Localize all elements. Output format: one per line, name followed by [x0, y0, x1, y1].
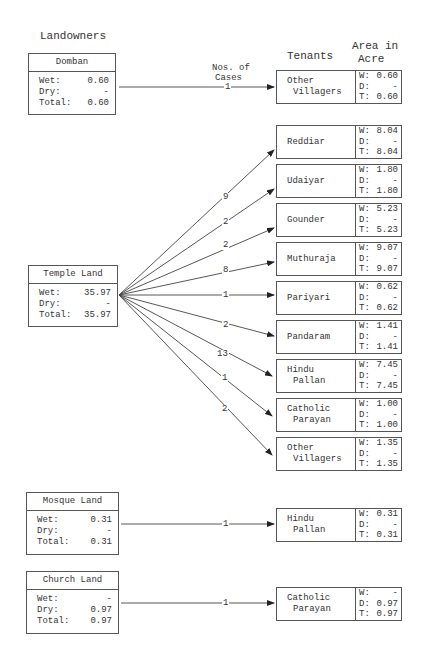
d-value: - — [393, 176, 398, 187]
tenant-box-catholic-parayan: CatholicParayan W:1.00 D:- T:1.00 — [276, 398, 402, 432]
landowners-header: Landowners — [40, 30, 106, 42]
wet-label: Wet: — [37, 515, 59, 526]
wet-label: Wet: — [39, 76, 61, 87]
t-value: 0.62 — [376, 303, 398, 314]
dry-value: - — [106, 299, 111, 310]
case-count: 13 — [216, 350, 229, 359]
tenant-box-reddiar: Reddiar W:8.04 D:- T:8.04 — [276, 125, 402, 159]
d-value: - — [393, 82, 398, 93]
t-label: T: — [359, 530, 370, 541]
tenant-name-line1: Other — [287, 76, 355, 87]
w-label: W: — [359, 126, 370, 137]
dry-value: - — [107, 526, 112, 537]
tenant-box-udaiyar: Udaiyar W:1.80 D:- T:1.80 — [276, 164, 402, 198]
w-label: W: — [359, 71, 370, 82]
d-label: D: — [359, 410, 370, 421]
d-value: - — [393, 520, 398, 531]
t-label: T: — [359, 92, 370, 103]
w-label: W: — [359, 360, 370, 371]
t-value: 5.23 — [376, 225, 398, 236]
d-label: D: — [359, 371, 370, 382]
tenant-name-line1: Pandaram — [287, 332, 355, 343]
d-label: D: — [359, 215, 370, 226]
t-value: 1.80 — [376, 186, 398, 197]
dry-label: Dry: — [39, 87, 61, 98]
d-value: - — [393, 332, 398, 343]
t-label: T: — [359, 303, 370, 314]
dry-label: Dry: — [37, 526, 59, 537]
wet-value: 0.60 — [87, 76, 109, 87]
d-value: 0.97 — [376, 599, 398, 610]
case-count: 1 — [222, 599, 229, 608]
tenant-name-line2: Villagers — [287, 87, 355, 98]
d-label: D: — [359, 176, 370, 187]
t-label: T: — [359, 459, 370, 470]
landowner-box-mosque-land: Mosque Land Wet:0.31 Dry:- Total:0.31 — [26, 492, 119, 555]
w-value: 7.45 — [376, 360, 398, 371]
w-value: 5.23 — [376, 204, 398, 215]
w-label: W: — [359, 243, 370, 254]
d-label: D: — [359, 599, 370, 610]
tenant-name-line1: Catholic — [287, 593, 355, 604]
tenant-name-line1: Reddiar — [287, 137, 355, 148]
tenants-header: Tenants — [287, 50, 333, 62]
dry-label: Dry: — [39, 299, 61, 310]
tenant-box-pariyari: Pariyari W:0.62 D:- T:0.62 — [276, 281, 402, 315]
case-count: 2 — [222, 218, 229, 227]
w-value: 1.41 — [376, 321, 398, 332]
case-count: 1 — [222, 520, 229, 529]
case-count: 1 — [224, 83, 231, 92]
tenant-name-line2: Pallan — [287, 525, 355, 536]
case-count: 1 — [222, 291, 229, 300]
total-value: 35.97 — [84, 310, 111, 321]
tenant-box-other-villagers-temple: OtherVillagers W:1.35 D:- T:1.35 — [276, 437, 402, 471]
tenant-name-line1: Muthuraja — [287, 254, 355, 265]
t-label: T: — [359, 609, 370, 620]
landowner-box-temple-land: Temple Land Wet:35.97 Dry:- Total:35.97 — [28, 265, 118, 327]
wet-label: Wet: — [37, 594, 59, 605]
d-label: D: — [359, 332, 370, 343]
total-label: Total: — [39, 98, 71, 109]
landowner-name: Temple Land — [29, 266, 117, 284]
t-value: 1.35 — [376, 459, 398, 470]
total-value: 0.97 — [90, 616, 112, 627]
case-count: 1 — [221, 374, 228, 383]
d-label: D: — [359, 137, 370, 148]
total-label: Total: — [37, 537, 69, 548]
t-label: T: — [359, 186, 370, 197]
w-label: W: — [359, 204, 370, 215]
tenant-name-line2: Villagers — [287, 454, 355, 465]
w-value: - — [393, 588, 398, 599]
t-value: 0.97 — [376, 609, 398, 620]
dry-label: Dry: — [37, 605, 59, 616]
landowner-box-domban: Domban Wet:0.60 Dry:- Total:0.60 — [28, 53, 116, 115]
tenant-name-line1: Hindu — [287, 514, 355, 525]
w-value: 1.35 — [376, 438, 398, 449]
w-value: 0.60 — [376, 71, 398, 82]
d-label: D: — [359, 293, 370, 304]
case-count: 2 — [221, 405, 228, 414]
landowner-box-church-land: Church Land Wet:- Dry:0.97 Total:0.97 — [26, 571, 119, 634]
wet-value: - — [107, 594, 112, 605]
t-value: 9.07 — [376, 264, 398, 275]
tenant-name-line2: Pallan — [287, 376, 355, 387]
t-value: 0.60 — [376, 92, 398, 103]
w-value: 0.62 — [376, 282, 398, 293]
d-label: D: — [359, 449, 370, 460]
tenant-box-pandaram: Pandaram W:1.41 D:- T:1.41 — [276, 320, 402, 354]
landowner-name: Domban — [29, 54, 115, 72]
t-value: 0.31 — [376, 530, 398, 541]
w-value: 8.04 — [376, 126, 398, 137]
w-value: 0.31 — [376, 509, 398, 520]
d-label: D: — [359, 520, 370, 531]
tenant-name-line1: Pariyari — [287, 293, 355, 304]
total-label: Total: — [37, 616, 69, 627]
tenant-name-line1: Other — [287, 443, 355, 454]
t-value: 8.04 — [376, 147, 398, 158]
total-value: 0.31 — [90, 537, 112, 548]
tenant-name-line1: Catholic — [287, 404, 355, 415]
total-value: 0.60 — [87, 98, 109, 109]
w-label: W: — [359, 399, 370, 410]
w-value: 1.80 — [376, 165, 398, 176]
tenant-name-line1: Udaiyar — [287, 176, 355, 187]
